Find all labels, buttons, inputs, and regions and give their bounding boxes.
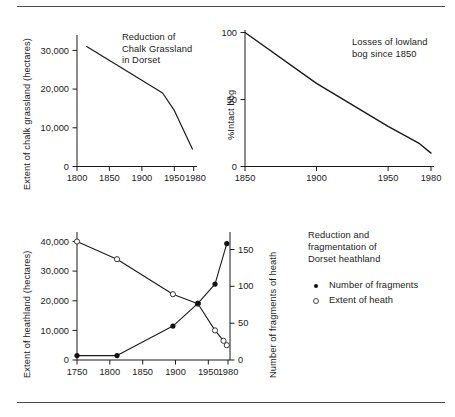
legend-label-extent-of-heath: Extent of heath (324, 295, 393, 307)
svg-text:0: 0 (64, 162, 69, 172)
filled-circle-icon (308, 284, 324, 288)
bottom-divider-rule (17, 402, 445, 403)
svg-text:1750: 1750 (67, 367, 88, 377)
legend-item-number-of-fragments: Number of fragments (308, 278, 453, 293)
svg-text:100: 100 (238, 281, 254, 291)
heathland-plot: 0 10,000 20,000 30,000 40,000 0 50 100 1… (0, 218, 290, 393)
open-circle-icon (308, 298, 324, 304)
svg-text:1980: 1980 (421, 173, 442, 183)
svg-text:40,000: 40,000 (41, 237, 69, 247)
svg-text:30,000: 30,000 (41, 266, 69, 276)
heathland-legend-block: Reduction and fragmentation of Dorset he… (308, 230, 453, 308)
svg-text:1950: 1950 (198, 367, 219, 377)
lowland-bog-title: Losses of lowland bog since 1850 (352, 37, 452, 60)
lowland-bog-y-axis-label: %Intact bog (226, 90, 236, 140)
svg-text:1800: 1800 (67, 173, 88, 183)
svg-text:1900: 1900 (132, 173, 153, 183)
svg-text:1980: 1980 (218, 367, 239, 377)
svg-text:1950: 1950 (164, 173, 185, 183)
svg-text:1850: 1850 (235, 173, 256, 183)
chart-dorset-heathland: Extent of heathland (hectares) Number of… (0, 218, 290, 393)
heathland-right-y-axis-label: Number of fragments of heath (268, 252, 278, 378)
svg-text:1980: 1980 (185, 173, 206, 183)
svg-text:10,000: 10,000 (41, 123, 69, 133)
top-divider-rule (17, 6, 445, 7)
chart-chalk-grassland: Extent of chalk grassland (hectares) Red… (0, 18, 210, 193)
svg-text:1850: 1850 (132, 367, 153, 377)
svg-text:150: 150 (238, 245, 254, 255)
svg-text:20,000: 20,000 (41, 296, 69, 306)
figure-page: Extent of chalk grassland (hectares) Red… (0, 0, 455, 417)
svg-text:100: 100 (221, 28, 237, 38)
svg-text:0: 0 (238, 355, 243, 365)
chart-lowland-bog: %Intact bog Losses of lowland bog since … (212, 18, 455, 193)
svg-text:10,000: 10,000 (41, 326, 69, 336)
chalk-grassland-y-axis-label: Extent of chalk grassland (hectares) (22, 38, 32, 190)
svg-text:1900: 1900 (165, 367, 186, 377)
svg-text:0: 0 (64, 355, 69, 365)
svg-text:50: 50 (238, 318, 248, 328)
legend-label-number-of-fragments: Number of fragments (324, 280, 418, 292)
svg-text:1850: 1850 (99, 173, 120, 183)
svg-text:20,000: 20,000 (41, 84, 69, 94)
svg-text:1800: 1800 (99, 367, 120, 377)
svg-text:0: 0 (232, 162, 237, 172)
heathland-caption: Reduction and fragmentation of Dorset he… (308, 230, 453, 265)
heathland-left-y-axis-label: Extent of heathland (hectares) (22, 250, 32, 378)
svg-text:1950: 1950 (378, 173, 399, 183)
svg-text:30,000: 30,000 (41, 46, 69, 56)
legend-item-extent-of-heath: Extent of heath (308, 293, 453, 308)
svg-text:1900: 1900 (306, 173, 327, 183)
chalk-grassland-title: Reduction of Chalk Grassland in Dorset (122, 32, 217, 67)
